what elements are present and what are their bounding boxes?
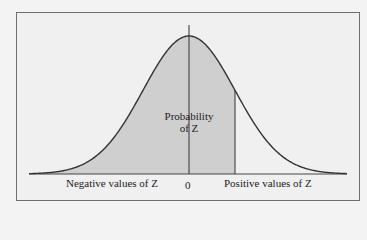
probability-label-line2: of Z [164,122,214,134]
probability-label-line1: Probability [164,110,214,122]
positive-values-label: Positive values of Z [224,177,312,189]
zero-label: 0 [185,179,191,191]
shaded-probability-area [29,36,235,174]
probability-label: Probability of Z [164,110,214,134]
negative-values-label: Negative values of Z [66,177,158,189]
